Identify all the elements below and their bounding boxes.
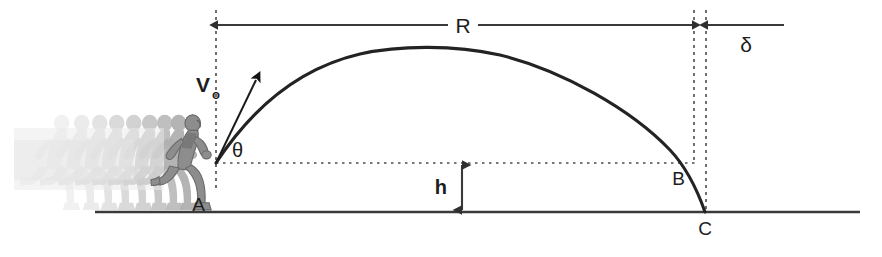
runner-motion-trail	[14, 115, 197, 210]
projectile-diagram: R δ V o θ h A B C	[0, 0, 882, 257]
range-label: R	[455, 14, 470, 37]
figure-canvas: R δ V o θ h A B C	[0, 0, 882, 257]
point-b-label: B	[672, 168, 685, 189]
velocity-label: V	[196, 73, 210, 96]
point-c-label: C	[698, 218, 712, 239]
trajectory-curve	[216, 47, 705, 212]
point-a-label: A	[192, 194, 205, 215]
range-dimension: R	[218, 14, 692, 37]
velocity-subscript-label: o	[212, 87, 220, 102]
height-dimension: h	[435, 165, 462, 210]
delta-label: δ	[740, 33, 752, 56]
launch-angle-label: θ	[232, 139, 243, 161]
delta-dimension: δ	[708, 25, 784, 56]
height-label: h	[435, 176, 447, 198]
